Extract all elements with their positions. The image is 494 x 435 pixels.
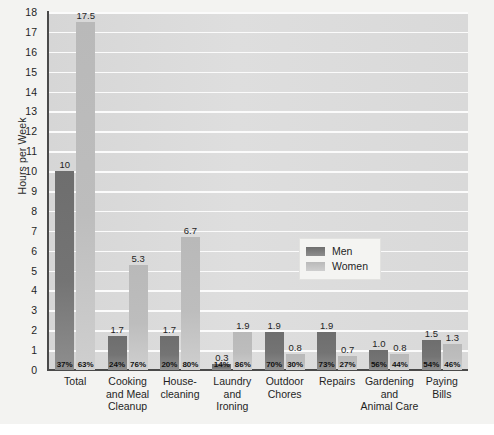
chart-legend: Men Women — [299, 238, 381, 280]
gridline — [49, 92, 468, 94]
legend-swatch-men-icon — [306, 247, 325, 256]
y-axis-tick-label: 6 — [31, 245, 37, 256]
category-label-line: Gardening — [359, 375, 419, 388]
y-axis-tick-label: 10 — [25, 166, 37, 177]
x-axis-category-label: LaundryandIroning — [202, 375, 262, 413]
gridline — [49, 271, 468, 273]
category-label-line: Cooking — [97, 375, 157, 388]
gridline — [49, 310, 468, 312]
x-axis-category-label: PayingBills — [412, 375, 472, 400]
y-axis-tick-label: 16 — [25, 47, 37, 58]
x-axis-line — [47, 369, 468, 371]
x-axis-category-label: OutdoorChores — [255, 375, 315, 400]
y-axis-tick-label: 8 — [31, 206, 37, 217]
category-label-line: Bills — [412, 388, 472, 401]
category-label-line: House- — [150, 375, 210, 388]
legend-label-women: Women — [332, 261, 368, 272]
y-axis-line — [47, 11, 49, 371]
legend-label-men: Men — [332, 246, 352, 257]
category-label-line: Paying — [412, 375, 472, 388]
gridline — [49, 211, 468, 213]
y-axis-tick-label: 3 — [31, 305, 37, 316]
gridline — [49, 231, 468, 233]
category-label-line: Outdoor — [255, 375, 315, 388]
gridline — [49, 111, 468, 113]
category-label-line: Repairs — [307, 375, 367, 388]
bar-chart-figure: Hours per Week 0123456789101112131415161… — [0, 0, 494, 435]
gridline — [49, 350, 468, 352]
gridline — [49, 52, 468, 54]
plot-area — [49, 12, 468, 370]
y-axis-tick-label: 17 — [25, 27, 37, 38]
category-label-line: Animal Care — [359, 400, 419, 413]
x-axis-category-label: Total — [45, 375, 105, 388]
x-axis-category-label: House-cleaning — [150, 375, 210, 400]
category-label-line: Total — [45, 375, 105, 388]
y-axis-tick-label: 12 — [25, 126, 37, 137]
y-axis-tick-label: 0 — [31, 365, 37, 376]
y-axis-tick-label: 14 — [25, 86, 37, 97]
category-label-line: and — [359, 388, 419, 401]
x-axis-category-label: GardeningandAnimal Care — [359, 375, 419, 413]
y-axis-tick-label: 1 — [31, 345, 37, 356]
x-axis-category-label: Repairs — [307, 375, 367, 388]
gridline — [49, 330, 468, 332]
y-axis-tick-label: 2 — [31, 325, 37, 336]
category-label-line: Laundry — [202, 375, 262, 388]
gridline — [49, 32, 468, 34]
y-axis-tick-label: 9 — [31, 186, 37, 197]
legend-swatch-women-icon — [306, 262, 325, 271]
gridline — [49, 251, 468, 253]
y-axis-tick-labels: 0123456789101112131415161718 — [0, 0, 47, 435]
legend-item-women: Women — [306, 259, 368, 274]
y-axis-tick-label: 4 — [31, 285, 37, 296]
gridline — [49, 131, 468, 133]
category-label-line: Cleanup — [97, 400, 157, 413]
gridline — [49, 290, 468, 292]
footer-strip — [0, 424, 494, 435]
gridlines — [49, 12, 468, 370]
y-axis-tick-label: 18 — [25, 7, 37, 18]
category-label-line: and Meal — [97, 388, 157, 401]
category-label-line: Ironing — [202, 400, 262, 413]
y-axis-tick-label: 15 — [25, 66, 37, 77]
category-label-line: and — [202, 388, 262, 401]
gridline — [49, 72, 468, 74]
category-label-line: Chores — [255, 388, 315, 401]
y-axis-tick-label: 5 — [31, 265, 37, 276]
gridline — [49, 171, 468, 173]
gridline — [49, 151, 468, 153]
y-axis-tick-label: 7 — [31, 226, 37, 237]
x-axis-category-label: Cookingand MealCleanup — [97, 375, 157, 413]
gridline — [49, 191, 468, 193]
category-label-line: cleaning — [150, 388, 210, 401]
y-axis-tick-label: 11 — [26, 146, 37, 157]
gridline — [49, 12, 468, 14]
legend-item-men: Men — [306, 244, 368, 259]
y-axis-tick-label: 13 — [25, 106, 37, 117]
